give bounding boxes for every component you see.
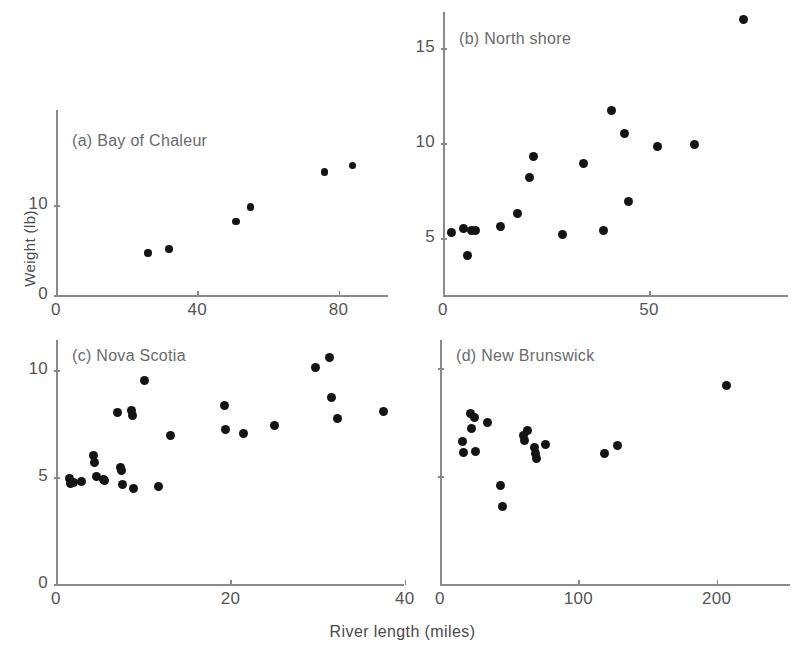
data-point [467,424,476,433]
panel-a-plot: 01004080 [56,110,396,296]
panel-a-x-tick [197,291,199,296]
panel-d-plot: 0100200 [440,340,792,585]
panel-north-shore: (b) North shore 51015050 [443,12,793,296]
data-point [140,376,149,385]
data-point [523,426,532,435]
data-point [129,484,138,493]
data-point [600,449,609,458]
panel-d-x-ticklabel: 100 [548,589,608,609]
data-point [239,429,248,438]
panel-c-y-tick [54,584,60,586]
panel-b-y-tick [441,48,447,50]
data-point [220,401,229,410]
data-point [607,106,616,115]
panel-b-y-axis [443,12,445,295]
data-point [349,162,357,170]
data-point [722,381,731,390]
panel-bay-of-chaleur: (a) Bay of Chaleur 01004080 [56,110,396,296]
data-point [447,228,456,237]
data-point [690,140,699,149]
data-point [579,159,588,168]
data-point [496,481,505,490]
data-point [739,15,748,24]
data-point [90,458,99,467]
panel-a-y-tick [54,295,60,297]
data-point [166,431,175,440]
data-point [270,421,279,430]
panel-a-y-axis [56,110,58,295]
data-point [144,249,152,257]
data-point [311,363,320,372]
panel-a-x-tick [339,291,341,296]
data-point [221,425,230,434]
panel-c-y-ticklabel: 5 [12,466,48,486]
data-point [77,477,86,486]
data-point [333,414,342,423]
data-point [599,226,608,235]
data-point [532,454,541,463]
panel-new-brunswick: (d) New Brunswick 0100200 [440,340,792,585]
data-point [459,448,468,457]
data-point [100,476,109,485]
panel-d-x-ticklabel: 0 [410,589,470,609]
data-point [463,251,472,260]
data-point [613,441,622,450]
data-point [327,393,336,402]
data-point [496,222,505,231]
data-point [154,482,163,491]
data-point [653,142,662,151]
panel-c-y-ticklabel: 10 [12,359,48,379]
panel-c-y-tick [54,477,60,479]
data-point [117,466,126,475]
panel-d-y-tick [438,476,444,478]
data-point [325,353,334,362]
panel-b-y-ticklabel: 10 [399,132,435,152]
panel-b-x-ticklabel: 50 [619,300,679,320]
panel-d-x-tick [578,580,580,585]
panel-c-x-tick [230,580,232,585]
panel-d-x-tick [717,580,719,585]
data-point [165,245,173,253]
panel-c-y-tick [54,370,60,372]
data-point [247,203,255,211]
data-point [541,440,550,449]
panel-c-x-tick [405,580,407,585]
panel-a-x-ticklabel: 40 [167,300,227,320]
data-point [471,226,480,235]
panel-c-y-axis [56,340,58,584]
data-point [128,411,137,420]
panel-nova-scotia: (c) Nova Scotia 051002040 [56,340,406,585]
panel-a-x-ticklabel: 80 [309,300,369,320]
x-axis-title: River length (miles) [0,623,805,641]
data-point [232,218,240,226]
data-point [529,152,538,161]
data-point [483,418,492,427]
panel-d-x-axis [440,584,790,586]
panel-a-y-ticklabel: 10 [12,194,48,214]
data-point [620,129,629,138]
data-point [525,173,534,182]
data-point [520,436,529,445]
data-point [513,209,522,218]
panel-c-plot: 051002040 [56,340,406,585]
panel-b-y-tick [441,238,447,240]
panel-d-x-ticklabel: 200 [687,589,747,609]
panel-b-plot: 51015050 [443,12,793,296]
panel-a-x-ticklabel: 0 [26,300,86,320]
panel-b-x-ticklabel: 0 [413,300,473,320]
panel-d-y-tick [438,368,444,370]
panel-b-y-ticklabel: 5 [399,227,435,247]
panel-c-x-ticklabel: 20 [200,589,260,609]
data-point [113,408,122,417]
panel-b-y-tick [441,143,447,145]
panel-c-x-ticklabel: 0 [26,589,86,609]
panel-b-y-ticklabel: 15 [399,37,435,57]
data-point [624,197,633,206]
panel-b-x-tick [649,291,651,296]
data-point [470,413,479,422]
panel-b-x-axis [443,295,788,297]
figure-root: Weight (lb) River length (miles) (a) Bay… [0,0,805,649]
data-point [118,480,127,489]
data-point [558,230,567,239]
data-point [471,447,480,456]
